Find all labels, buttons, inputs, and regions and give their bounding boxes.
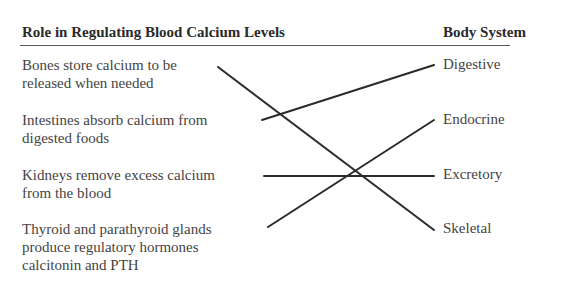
- match-line-bones-skeletal: [218, 67, 434, 230]
- match-line-intestines-digestive: [262, 65, 434, 120]
- matching-lines: [0, 0, 576, 291]
